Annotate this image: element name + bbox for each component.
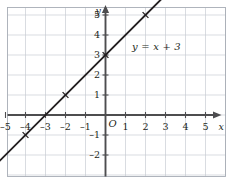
- x-tick-label: –4: [20, 122, 31, 132]
- x-tick-label: 3: [162, 122, 168, 132]
- x-tick-label: –3: [40, 122, 51, 132]
- y-tick-label: 1: [94, 90, 100, 100]
- x-tick-label: 5: [202, 122, 208, 132]
- x-tick-label: 1: [122, 122, 128, 132]
- grid-lines: [8, 8, 226, 177]
- x-tick-label: –5: [0, 122, 11, 132]
- x-tick-label: –2: [60, 122, 71, 132]
- y-tick-label: 2: [94, 70, 100, 80]
- x-tick-label: 2: [142, 122, 148, 132]
- y-axis-label: y: [96, 6, 101, 16]
- equation-label: y = x + 3: [132, 42, 181, 52]
- x-tick-label: 4: [182, 122, 188, 132]
- plot-frame: [8, 8, 226, 177]
- y-tick-label: 4: [94, 30, 100, 40]
- y-tick-label: –2: [89, 150, 100, 160]
- coordinate-plane-svg: [0, 0, 232, 181]
- graph-figure: –5 –4 –3 –2 –1 1 2 3 4 5 5 4 3 2 1 –1 –2…: [0, 0, 232, 181]
- origin-label: O: [109, 119, 117, 129]
- line-series: [0, 0, 166, 173]
- axes: [8, 5, 222, 177]
- y-tick-label: 3: [94, 50, 100, 60]
- x-axis-label: x: [219, 122, 224, 132]
- y-tick-label: –1: [89, 130, 100, 140]
